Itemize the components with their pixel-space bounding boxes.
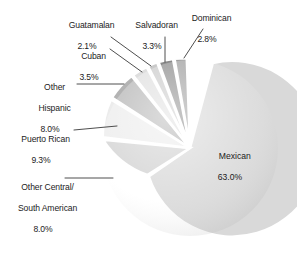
label-other-central-south-line2: South American: [18, 203, 77, 213]
label-other-hispanic-line2: Hispanic: [38, 103, 70, 113]
label-dominican: Dominican 2.8%: [176, 3, 238, 65]
label-mexican-name: Mexican: [219, 151, 251, 161]
label-cuban-name: Cuban: [81, 51, 106, 61]
label-puerto-rican-name: Puerto Rican: [21, 134, 69, 144]
label-other-hispanic-line1: Other: [44, 82, 65, 92]
label-salvadoran: Salvadoran 3.3%: [121, 10, 183, 72]
label-dominican-pct: 2.8%: [176, 34, 238, 44]
label-salvadoran-pct: 3.3%: [121, 41, 183, 51]
pie-chart-figure: Guatamalan 2.1% Salvadoran 3.3% Dominica…: [0, 0, 297, 256]
label-guatamalan-name: Guatamalan: [69, 20, 115, 30]
label-mexican: Mexican 63.0%: [200, 140, 260, 204]
label-other-central-south-line1: Other Central/: [21, 182, 74, 192]
label-other-central-south-pct: 8.0%: [2, 224, 84, 234]
label-salvadoran-name: Salvadoran: [135, 20, 177, 30]
label-puerto-rican-pct: 9.3%: [10, 155, 72, 165]
label-dominican-name: Dominican: [192, 13, 232, 23]
label-mexican-pct: 63.0%: [200, 172, 260, 183]
label-other-central-south-american: Other Central/ South American 8.0%: [2, 172, 84, 255]
